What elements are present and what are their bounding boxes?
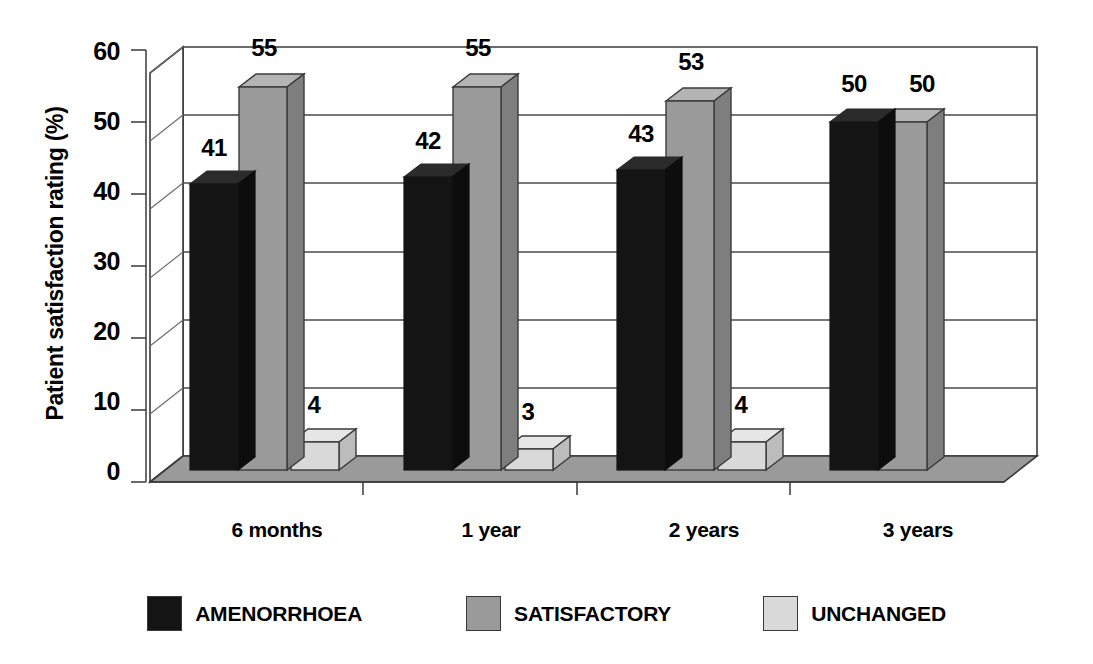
value-label-unchanged-6-months: 4 (288, 391, 340, 419)
legend: AMENORRHOEA SATISFACTORY UNCHANGED (0, 596, 1093, 631)
bar-group-3-years (830, 109, 944, 470)
legend-item-unchanged[interactable]: UNCHANGED (763, 596, 946, 631)
legend-label-amenorrhoea: AMENORRHOEA (195, 602, 362, 626)
value-label-satisfactory-2-years: 53 (659, 48, 723, 76)
x-tick-label-1-year: 1 year (406, 518, 576, 542)
bar-amenorrhoea-3-years[interactable] (830, 109, 895, 470)
x-tick-label-6-months: 6 months (192, 518, 362, 542)
value-label-amenorrhoea-2-years: 43 (609, 120, 673, 148)
legend-item-satisfactory[interactable]: SATISFACTORY (466, 596, 671, 631)
y-axis-line (131, 50, 146, 482)
legend-label-unchanged: UNCHANGED (811, 602, 946, 626)
value-label-unchanged-2-years: 4 (715, 391, 767, 419)
plot-area (0, 0, 1093, 664)
value-label-satisfactory-3-years: 50 (890, 70, 954, 98)
value-label-unchanged-1-year: 3 (502, 398, 554, 426)
value-label-satisfactory-6-months: 55 (232, 34, 296, 62)
bar-chart: Patient satisfaction rating (%) 60 50 40… (0, 0, 1093, 664)
x-tick-label-3-years: 3 years (833, 518, 1003, 542)
value-label-satisfactory-1-year: 55 (446, 34, 510, 62)
value-label-amenorrhoea-3-years: 50 (822, 70, 886, 98)
legend-swatch-satisfactory (466, 596, 501, 631)
bar-amenorrhoea-6-months[interactable] (190, 171, 255, 470)
legend-item-amenorrhoea[interactable]: AMENORRHOEA (147, 596, 362, 631)
value-label-amenorrhoea-1-year: 42 (396, 127, 460, 155)
value-label-amenorrhoea-6-months: 41 (182, 134, 246, 162)
x-axis-line (150, 482, 1004, 495)
legend-label-satisfactory: SATISFACTORY (514, 602, 671, 626)
bar-amenorrhoea-2-years[interactable] (617, 157, 682, 470)
legend-swatch-amenorrhoea (147, 596, 182, 631)
bar-amenorrhoea-1-year[interactable] (404, 164, 469, 470)
x-tick-label-2-years: 2 years (619, 518, 789, 542)
legend-swatch-unchanged (763, 596, 798, 631)
